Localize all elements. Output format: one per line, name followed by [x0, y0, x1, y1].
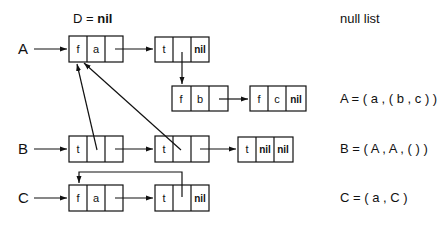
svg-text:t: t: [76, 143, 79, 155]
svg-text:f: f: [257, 93, 261, 105]
svg-text:c: c: [274, 93, 280, 105]
svg-text:t: t: [162, 43, 165, 55]
svg-text:t: t: [162, 143, 165, 155]
svg-text:a: a: [93, 43, 100, 55]
diagram-lines: f a t nil f b f c nil t t t nil nil f a …: [0, 0, 438, 225]
svg-text:t: t: [162, 192, 165, 204]
svg-text:nil: nil: [194, 193, 206, 204]
svg-text:nil: nil: [259, 144, 271, 155]
cell-labels: f a t nil f b f c nil t t t nil nil f a …: [76, 43, 302, 204]
list-structure-diagram: D = nil null list A B C A = ( a , ( b , …: [0, 0, 438, 225]
svg-text:f: f: [76, 192, 80, 204]
svg-text:nil: nil: [290, 94, 302, 105]
shared-b2-to-a-arrow: [84, 63, 181, 150]
svg-text:b: b: [197, 93, 203, 105]
svg-text:nil: nil: [277, 144, 289, 155]
svg-text:t: t: [245, 143, 248, 155]
svg-text:nil: nil: [194, 44, 206, 55]
svg-text:f: f: [76, 43, 80, 55]
svg-text:a: a: [93, 192, 100, 204]
svg-text:f: f: [179, 93, 183, 105]
